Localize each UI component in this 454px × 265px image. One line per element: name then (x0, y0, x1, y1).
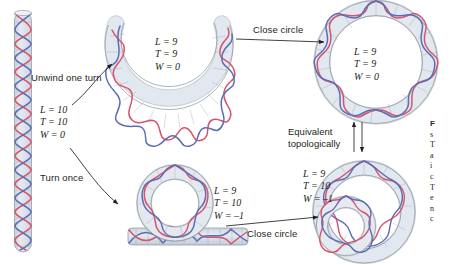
equations-linear-duplex: L = 10 T = 10 W = 0 (40, 104, 67, 141)
caption-line: T (430, 140, 454, 151)
caption-line: T (430, 183, 454, 194)
unwind-one-turn-label: Unwind one turn (31, 72, 102, 83)
caption-line: i (430, 161, 454, 172)
horseshoe-T: T = 9 (155, 48, 180, 60)
equivalence-double-arrow (354, 122, 362, 152)
horseshoe-W: W = 0 (155, 61, 180, 73)
equivalent-topologically-label: Equivalent topologically (288, 126, 340, 149)
linear-W: W = 0 (40, 129, 67, 141)
dna-artwork-layer (0, 0, 454, 265)
equations-lariat: L = 9 T = 10 W = –1 (214, 185, 244, 222)
close-circle-label-top: Close circle (253, 24, 303, 35)
relaxed-L: L = 9 (354, 46, 379, 58)
supercoiled-T: T = 10 (303, 180, 333, 192)
linear-dna-vertical (15, 10, 32, 252)
equivalent-line-1: Equivalent (288, 126, 340, 138)
supercoiled-W: W = –1 (303, 193, 333, 205)
figure-canvas: Unwind one turn Turn once Close circle C… (0, 0, 454, 265)
supercoiled-L: L = 9 (303, 168, 333, 180)
relaxed-W: W = 0 (354, 71, 379, 83)
horseshoe-L: L = 9 (155, 36, 180, 48)
equivalent-line-2: topologically (288, 138, 340, 150)
caption-line: a (430, 151, 454, 162)
equations-open-horseshoe: L = 9 T = 9 W = 0 (155, 36, 180, 73)
close-circle-label-bottom: Close circle (247, 228, 297, 239)
caption-line: n (430, 204, 454, 215)
lariat-T: T = 10 (214, 197, 244, 209)
relaxed-T: T = 9 (354, 58, 379, 70)
linear-T: T = 10 (40, 116, 67, 128)
caption-line: c (430, 214, 454, 225)
caption-line: e (430, 193, 454, 204)
lariat-W: W = –1 (214, 210, 244, 222)
turn-once-label: Turn once (40, 172, 83, 183)
equations-relaxed-circle: L = 9 T = 9 W = 0 (354, 46, 379, 83)
unwind-arrow (72, 64, 112, 105)
equations-supercoiled-circle: L = 9 T = 10 W = –1 (303, 168, 333, 205)
caption-line: s (430, 130, 454, 141)
lariat-L: L = 9 (214, 185, 244, 197)
figure-caption: F s T a i c T e n c (430, 119, 454, 225)
linear-L: L = 10 (40, 104, 67, 116)
caption-title: F (430, 119, 454, 130)
close-circle-arrow-top (236, 39, 324, 42)
caption-line: c (430, 172, 454, 183)
